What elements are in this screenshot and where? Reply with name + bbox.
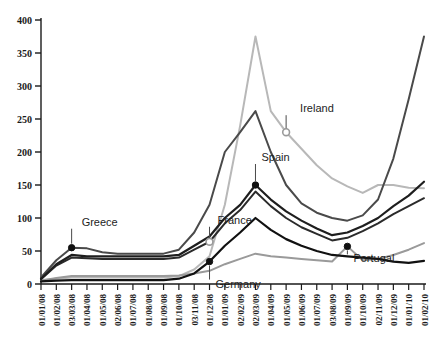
x-tick-label: 01/01/10 — [404, 294, 414, 327]
x-tick-label: 02/03/09 — [251, 294, 261, 327]
x-tick-label: 01/12/08 — [205, 294, 215, 327]
x-tick-label: 01/08/08 — [144, 294, 154, 327]
x-tick-label: 01/12/09 — [389, 294, 399, 327]
series-lines-group — [41, 37, 424, 282]
x-tick-label: 01/05/08 — [98, 294, 108, 327]
series-marker-ireland — [283, 129, 290, 136]
chart-container: 050100150200250300350400 01/01/0801/02/0… — [0, 0, 431, 347]
y-tick-label: 250 — [17, 114, 32, 125]
series-label-greece: Greece — [82, 216, 118, 228]
x-tick-label: 01/07/09 — [312, 294, 322, 327]
series-line-france — [41, 192, 424, 280]
x-tick-label: 01/10/08 — [174, 294, 184, 327]
series-marker-spain — [252, 182, 258, 188]
x-tick-label: 01/02/08 — [52, 294, 62, 327]
series-label-portugal: Portugal — [353, 252, 394, 264]
y-tick-label: 100 — [17, 213, 32, 224]
x-tick-label: 01/04/09 — [266, 294, 276, 327]
line-chart: 050100150200250300350400 01/01/0801/02/0… — [0, 0, 431, 347]
x-tick-label: 01/06/09 — [297, 294, 307, 327]
y-tick-label: 350 — [17, 48, 32, 59]
series-line-greece — [41, 37, 424, 278]
y-tick-label: 200 — [17, 147, 32, 158]
y-tick-label: 150 — [17, 180, 32, 191]
x-tick-label: 02/11/09 — [374, 294, 384, 326]
x-tick-label: 01/01/09 — [220, 294, 230, 327]
series-label-germany: Germany — [216, 278, 262, 290]
series-label-spain: Spain — [261, 151, 289, 163]
series-labels-group: IrelandGreeceSpainFranceGermanyPortugal — [82, 102, 395, 289]
series-marker-portugal — [344, 243, 350, 249]
x-tick-label: 02/06/08 — [113, 294, 123, 327]
x-tick-label: 01/04/08 — [82, 294, 92, 327]
x-tick-label: 02/02/09 — [236, 294, 246, 327]
y-tick-label: 50 — [22, 246, 32, 257]
y-tick-label: 0 — [27, 279, 32, 290]
x-tick-label: 03/08/09 — [328, 294, 338, 327]
series-label-ireland: Ireland — [300, 102, 334, 114]
y-tick-label: 300 — [17, 81, 32, 92]
x-tick-label: 01/01/08 — [37, 294, 47, 327]
y-axis-group: 050100150200250300350400 — [17, 15, 41, 290]
x-axis-ticks: 01/01/0801/02/0803/03/0801/04/0801/05/08… — [37, 284, 430, 326]
series-marker-germany — [206, 258, 212, 264]
x-tick-label: 01/07/08 — [128, 294, 138, 327]
series-marker-greece — [68, 245, 74, 251]
series-label-france: France — [218, 214, 252, 226]
x-tick-label: 01/02/10 — [420, 294, 430, 327]
x-tick-label: 01/09/08 — [159, 294, 169, 327]
x-axis-group: 01/01/0801/02/0803/03/0801/04/0801/05/08… — [37, 284, 430, 326]
x-tick-label: 03/11/08 — [190, 294, 200, 326]
y-tick-label: 400 — [17, 15, 32, 26]
x-tick-label: 01/10/09 — [358, 294, 368, 327]
y-axis-ticks: 050100150200250300350400 — [17, 15, 41, 290]
x-tick-label: 03/03/08 — [67, 294, 77, 327]
series-marker-france — [206, 238, 213, 245]
x-tick-label: 01/05/09 — [282, 294, 292, 327]
x-tick-label: 01/09/09 — [343, 294, 353, 327]
series-line-ireland — [41, 37, 424, 281]
